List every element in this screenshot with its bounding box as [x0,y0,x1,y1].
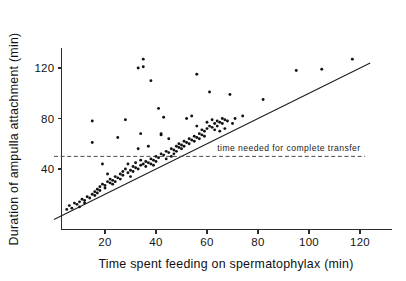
data-point [211,118,214,121]
data-point [155,155,158,158]
data-point [101,163,104,166]
data-point [116,176,119,179]
data-point [114,180,117,183]
data-point [96,188,99,191]
data-point [149,163,152,166]
data-point [262,98,265,101]
plot-axes [62,48,393,230]
data-point [206,127,209,130]
data-point [155,160,158,163]
data-point [218,121,221,124]
data-point [83,199,86,202]
data-point [127,171,130,174]
data-point [320,68,323,71]
data-point [178,146,181,149]
data-point [119,178,122,181]
data-point [86,195,89,198]
data-point [144,160,147,163]
data-point [93,190,96,193]
data-point [109,178,112,181]
data-point [160,152,163,155]
data-point [139,132,142,135]
data-point [73,202,76,205]
data-point [124,168,127,171]
data-point [180,147,183,150]
x-axis-title: Time spent feeding on spermatophylax (mi… [98,257,353,271]
data-point [170,155,173,158]
data-point [231,122,234,125]
data-point [200,133,203,136]
data-point [93,194,96,197]
x-tick-label: 40 [149,236,162,248]
data-point [70,207,73,210]
data-point [134,166,137,169]
y-tick-label: 120 [34,62,54,74]
data-point [175,145,178,148]
data-point [142,58,145,61]
data-point [106,173,109,176]
data-point [193,140,196,143]
data-point [198,132,201,135]
data-point [160,132,163,135]
data-point [185,141,188,144]
data-point [121,174,124,177]
data-point [208,91,211,94]
data-point [132,170,135,173]
data-point [139,159,142,162]
data-point [195,73,198,76]
data-point [142,163,145,166]
data-point [188,137,191,140]
complete-transfer-label: time needed for complete transfer [217,143,360,153]
data-point [185,117,188,120]
data-point [200,128,203,131]
data-point [206,121,209,124]
data-point [172,149,175,152]
y-tick-label: 80 [41,113,54,125]
data-point [109,181,112,184]
data-point [175,150,178,153]
data-point [165,150,168,153]
data-point [152,164,155,167]
data-point [121,170,124,173]
y-axis-ticks: 4080120 [34,62,61,175]
data-point [129,175,132,178]
data-point [104,186,107,189]
data-point [213,128,216,131]
data-point [221,117,224,120]
data-point [234,117,237,120]
data-point [119,173,122,176]
data-point [190,139,193,142]
scatter-plot-figure: 4080120 20406080100120 time needed for c… [0,0,406,281]
data-point [157,107,160,110]
data-point [111,183,114,186]
data-point [144,165,147,168]
data-point [101,183,104,186]
data-point [218,130,221,133]
x-tick-label: 80 [251,236,264,248]
data-point [83,202,86,205]
data-point [170,147,173,150]
data-point [216,120,219,123]
data-point [81,198,84,201]
data-point [195,136,198,139]
data-point [165,157,168,160]
data-point [98,185,101,188]
data-point [216,125,219,128]
data-point [149,157,152,160]
data-point [137,168,140,171]
data-point [91,141,94,144]
data-point [162,154,165,157]
data-point [188,142,191,145]
y-axis-title: Duration of ampulla attachment (min) [7,33,21,246]
data-point [68,204,71,207]
data-point [178,142,181,145]
data-point [208,125,211,128]
data-point [226,120,229,123]
data-point [91,193,94,196]
data-point [137,67,140,70]
data-point [213,122,216,125]
data-point [172,152,175,155]
data-point [190,115,193,118]
data-point [147,161,150,164]
data-point [193,135,196,138]
